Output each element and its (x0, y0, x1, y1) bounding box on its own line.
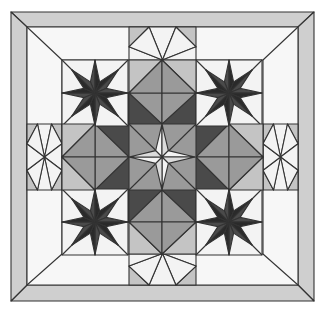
border-right (298, 12, 314, 301)
quilt-image (0, 0, 327, 310)
border-left (11, 12, 27, 301)
border-top (11, 12, 314, 27)
border-bottom (11, 285, 314, 301)
